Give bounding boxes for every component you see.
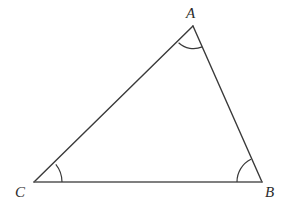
side-AB — [193, 26, 262, 182]
vertex-label-a: A — [186, 6, 195, 21]
angle-arc-A — [179, 43, 203, 49]
geometry-figure: A B C — [0, 0, 288, 212]
triangle-diagram — [0, 0, 288, 212]
side-CA — [34, 26, 193, 182]
angle-arc-C — [56, 164, 62, 182]
angle-arc-B — [237, 159, 251, 182]
vertex-label-b: B — [265, 185, 274, 200]
vertex-label-c: C — [15, 185, 25, 200]
